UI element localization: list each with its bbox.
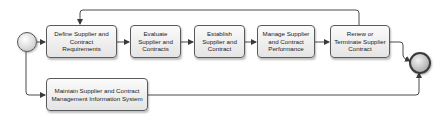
task-establish-contract[interactable]: Establish Supplier and Contract (194, 25, 245, 58)
task-label: Establish Supplier and Contract (198, 30, 241, 53)
task-label: Define Supplier and Contract Requirement… (50, 30, 113, 53)
flow-renew-to-end (390, 42, 410, 61)
task-define-requirements[interactable]: Define Supplier and Contract Requirement… (46, 25, 117, 58)
end-event-circle-icon (409, 52, 431, 74)
task-label: Manage Supplier and Contract Performance (261, 30, 311, 53)
task-label: Renew or Terminate Supplier Contract (334, 30, 386, 53)
task-label: Evaluate Supplier and Contracts (134, 30, 177, 53)
flow-renew-loop-to-define (80, 10, 359, 25)
start-event-circle-icon (17, 32, 37, 52)
task-manage-performance[interactable]: Manage Supplier and Contract Performance (257, 25, 315, 58)
task-label: Maintain Supplier and Contract Managemen… (50, 87, 144, 102)
task-evaluate-supplier[interactable]: Evaluate Supplier and Contracts (130, 25, 181, 58)
flow-start-to-maintain (26, 52, 45, 95)
task-renew-or-terminate[interactable]: Renew or Terminate Supplier Contract (330, 25, 390, 58)
task-maintain-information-system[interactable]: Maintain Supplier and Contract Managemen… (46, 78, 148, 111)
process-diagram: Define Supplier and Contract Requirement… (0, 0, 448, 120)
flow-maintain-to-end (148, 73, 419, 95)
